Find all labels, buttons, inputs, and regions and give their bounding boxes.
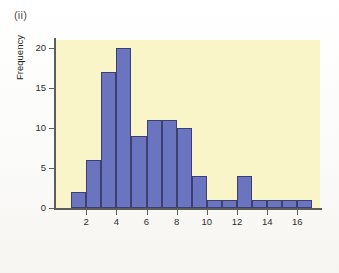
- x-axis-tick: [297, 210, 298, 215]
- histogram-bar: [177, 128, 192, 208]
- histogram-bar: [222, 200, 237, 208]
- x-axis-tick: [147, 210, 148, 215]
- y-axis-tick-label: 15: [28, 82, 46, 93]
- y-axis-tick: [49, 208, 54, 209]
- x-axis-tick: [237, 210, 238, 215]
- y-axis-tick-label: 0: [28, 202, 46, 213]
- histogram-bar: [116, 48, 131, 208]
- x-axis-line: [54, 208, 322, 210]
- histogram-bar: [297, 200, 312, 208]
- x-axis-tick: [116, 210, 117, 215]
- x-axis-tick-label: 12: [227, 216, 247, 227]
- histogram-bar: [162, 120, 177, 208]
- x-axis-tick: [267, 210, 268, 215]
- histogram-bar: [282, 200, 297, 208]
- y-axis-title: Frequency: [14, 3, 25, 113]
- x-axis-tick-label: 2: [76, 216, 96, 227]
- histogram-bar: [147, 120, 162, 208]
- x-axis-tick-label: 14: [257, 216, 277, 227]
- histogram-bar: [131, 136, 146, 208]
- y-axis-tick-label: 20: [28, 42, 46, 53]
- x-axis-tick-label: 4: [106, 216, 126, 227]
- plot-area: [56, 40, 320, 208]
- x-axis-tick-label: 8: [167, 216, 187, 227]
- histogram-bar: [207, 200, 222, 208]
- x-axis-tick: [177, 210, 178, 215]
- y-axis-tick: [49, 168, 54, 169]
- x-axis-tick-label: 10: [197, 216, 217, 227]
- y-axis-tick: [49, 88, 54, 89]
- histogram-bar: [86, 160, 101, 208]
- y-axis-tick: [49, 128, 54, 129]
- histogram-bar: [192, 176, 207, 208]
- x-axis-tick: [207, 210, 208, 215]
- histogram-bar: [252, 200, 267, 208]
- y-axis-tick: [49, 48, 54, 49]
- x-axis-tick-label: 6: [137, 216, 157, 227]
- x-axis-tick: [86, 210, 87, 215]
- y-axis-line: [54, 38, 56, 210]
- histogram-bar: [71, 192, 86, 208]
- histogram-bar: [237, 176, 252, 208]
- y-axis-tick-label: 10: [28, 122, 46, 133]
- histogram-bars: [56, 40, 320, 208]
- histogram-bar: [267, 200, 282, 208]
- histogram-bar: [101, 72, 116, 208]
- figure-container: (ii) Frequency 05101520246810121416: [0, 0, 339, 273]
- x-axis-tick-label: 16: [287, 216, 307, 227]
- y-axis-tick-label: 5: [28, 162, 46, 173]
